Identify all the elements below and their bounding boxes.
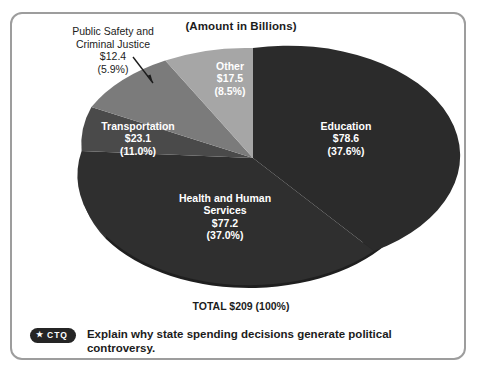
slice-label-public-safety-percent: (5.9%) <box>55 63 171 76</box>
slice-label-hhs-value: $77.2 <box>150 217 300 229</box>
slice-label-other-name: Other <box>197 60 263 72</box>
slice-label-education-name: Education <box>292 120 400 132</box>
star-icon: ★ <box>36 331 44 339</box>
slice-label-public-safety-name-line2: Criminal Justice <box>55 38 171 51</box>
slice-label-education-percent: (37.6%) <box>292 145 400 157</box>
slice-label-public-safety-name: Public Safety and <box>55 25 171 38</box>
slice-label-hhs-percent: (37.0%) <box>150 229 300 241</box>
slice-label-hhs-name: Health and Human <box>150 192 300 204</box>
figure-page: (Amount in Billions) E <box>0 0 482 375</box>
slice-label-public-safety-value: $12.4 <box>55 50 171 63</box>
slice-label-hhs-name-line2: Services <box>150 204 300 216</box>
slice-label-other: Other $17.5 (8.5%) <box>197 60 263 97</box>
ctq-badge: ★ CTQ <box>30 328 76 343</box>
slice-label-transportation-name: Transportation <box>82 120 194 132</box>
chart-total-label: TOTAL $209 (100%) <box>0 300 482 312</box>
slice-label-public-safety-and-criminal-justice: Public Safety and Criminal Justice $12.4… <box>55 25 171 75</box>
ctq-question-row: ★ CTQ Explain why state spending decisio… <box>30 327 442 356</box>
slice-label-health-and-human-services: Health and Human Services $77.2 (37.0%) <box>150 192 300 242</box>
slice-label-education-value: $78.6 <box>292 132 400 144</box>
ctq-question-text: Explain why state spending decisions gen… <box>87 327 417 356</box>
slice-label-transportation-percent: (11.0%) <box>82 145 194 157</box>
slice-label-transportation-value: $23.1 <box>82 132 194 144</box>
ctq-badge-label: CTQ <box>47 330 68 340</box>
slice-label-other-percent: (8.5%) <box>197 85 263 97</box>
slice-label-transportation: Transportation $23.1 (11.0%) <box>82 120 194 157</box>
slice-label-education: Education $78.6 (37.6%) <box>292 120 400 157</box>
slice-label-other-value: $17.5 <box>197 72 263 84</box>
